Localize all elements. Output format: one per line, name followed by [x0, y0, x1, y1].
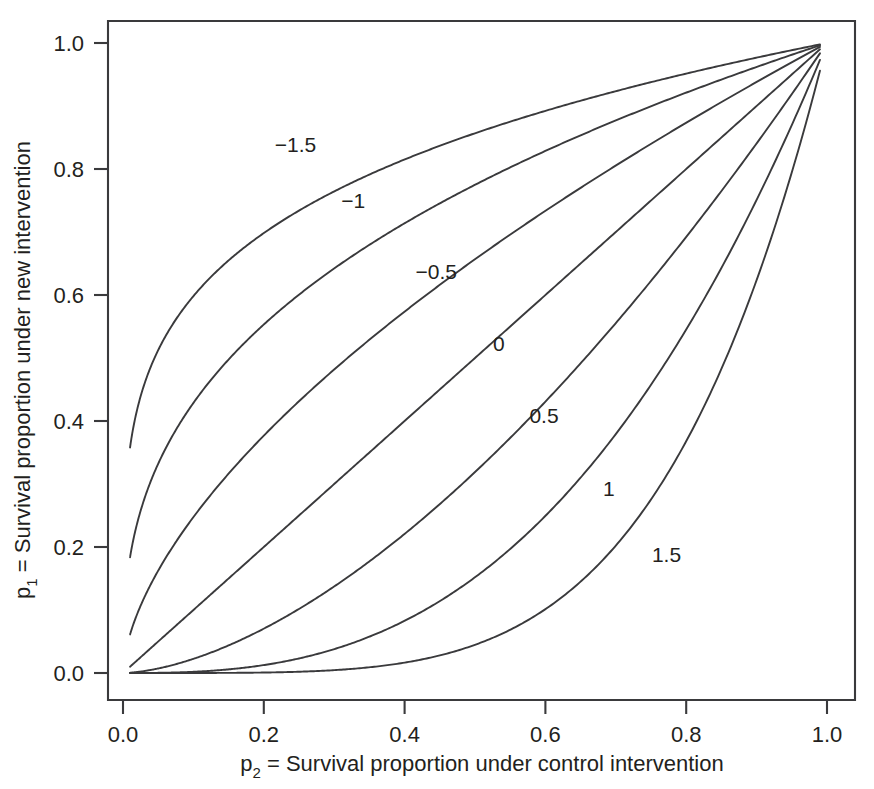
curve-label-1_5: 1.5 [652, 543, 681, 566]
y-tick-label: 0.0 [53, 661, 84, 686]
x-tick-label: 0.8 [671, 722, 702, 747]
y-axis-title-subscript: 1 [23, 578, 40, 586]
y-axis-tick-marks [94, 43, 108, 673]
plot-frame [108, 21, 855, 700]
x-axis-tick-marks [123, 700, 827, 714]
y-axis-tick-labels: 0.00.20.40.60.81.0 [53, 31, 84, 686]
curve-label-neg0_5: −0.5 [416, 260, 457, 283]
x-tick-label: 0.4 [389, 722, 420, 747]
x-tick-label: 0.2 [249, 722, 280, 747]
x-tick-label: 0.0 [108, 722, 139, 747]
x-axis-tick-labels: 0.00.20.40.60.81.0 [108, 722, 843, 747]
curve-label-group: −1.5−1−0.500.511.5 [275, 133, 681, 566]
y-tick-label: 0.2 [53, 535, 84, 560]
survival-proportion-chart: 0.00.20.40.60.81.0 0.00.20.40.60.81.0 −1… [0, 0, 874, 789]
y-tick-label: 0.4 [53, 409, 84, 434]
curve-theta-0 [130, 49, 820, 666]
curve-label-neg1: −1 [341, 189, 365, 212]
curve-label-0: 0 [493, 332, 505, 355]
x-tick-label: 0.6 [530, 722, 561, 747]
y-axis-title-rest: = Survival proportion under new interven… [10, 141, 35, 578]
y-tick-label: 1.0 [53, 31, 84, 56]
figure-container: 0.00.20.40.60.81.0 0.00.20.40.60.81.0 −1… [0, 0, 874, 789]
curve-theta-0_5 [130, 53, 820, 672]
x-axis-title-base: p [240, 751, 252, 776]
curve-theta-neg0_5 [130, 47, 820, 635]
x-axis-title: p2 = Survival proportion under control i… [240, 751, 723, 781]
y-tick-label: 0.8 [53, 157, 84, 182]
y-axis-title: p1 = Survival proportion under new inter… [10, 141, 40, 599]
x-tick-label: 1.0 [812, 722, 843, 747]
x-axis-title-rest: = Survival proportion under control inte… [261, 751, 724, 776]
x-axis-title-subscript: 2 [253, 764, 261, 781]
curve-label-0_5: 0.5 [529, 404, 558, 427]
y-axis-title-base: p [10, 587, 35, 599]
curve-theta-1 [130, 60, 820, 673]
curve-theta-neg1 [130, 45, 820, 557]
curve-label-neg1_5: −1.5 [275, 133, 316, 156]
y-tick-label: 0.6 [53, 283, 84, 308]
curve-group [130, 44, 820, 673]
svg-text:p1 = Survival proportion under: p1 = Survival proportion under new inter… [10, 141, 40, 599]
curve-label-1: 1 [603, 477, 615, 500]
svg-text:p2 = Survival proportion under: p2 = Survival proportion under control i… [240, 751, 723, 781]
curve-theta-1_5 [130, 71, 820, 673]
